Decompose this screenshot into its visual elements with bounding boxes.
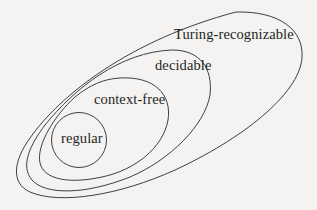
label-turing-recognizable: Turing-recognizable [174,26,294,43]
label-regular: regular [61,130,103,147]
label-context-free: context-free [94,91,165,108]
language-hierarchy-diagram: Turing-recognizable decidable context-fr… [0,0,317,210]
label-decidable: decidable [155,57,211,74]
